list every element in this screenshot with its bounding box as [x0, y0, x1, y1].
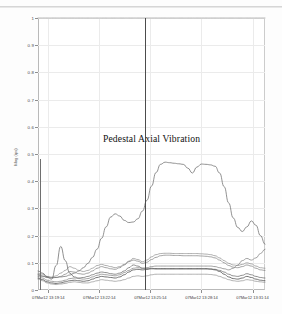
x-tick-label: 07Mar12 13:22:14	[83, 295, 115, 300]
vibration-chart-screenshot: Mag (ips) 00.10.20.30.40.50.60.70.80.91 …	[0, 0, 282, 314]
trace-trace-baseline	[38, 274, 265, 284]
x-tick-mark	[150, 290, 151, 293]
x-tick-label: 07Mar12 13:28:14	[185, 295, 217, 300]
x-tick-label: 07Mar12 13:31:14	[236, 295, 268, 300]
x-tick-mark	[253, 290, 254, 293]
x-tick-label: 07Mar12 13:25:14	[134, 295, 166, 300]
x-tick-mark	[99, 290, 100, 293]
y-tick-label: 0.5	[28, 152, 34, 157]
y-tick-label: 0	[31, 288, 34, 293]
trace-trace-right-rise	[38, 249, 265, 282]
left-edge-cursor-line	[40, 159, 41, 290]
y-tick-label: 0.6	[28, 124, 34, 129]
y-tick-label: 0.4	[28, 179, 34, 184]
y-tick-label: 0.1	[28, 260, 34, 265]
y-tick-label: 0.7	[28, 97, 34, 102]
y-tick-mark	[35, 290, 38, 291]
y-tick-label: 1	[31, 16, 34, 21]
y-tick-label: 0.9	[28, 43, 34, 48]
x-tick-label: 07Mar12 13:19:14	[32, 295, 64, 300]
y-tick-label: 0.2	[28, 233, 34, 238]
scan-top-edge-shadow	[0, 7, 282, 8]
plot-area[interactable]: 00.10.20.30.40.50.60.70.80.91 07Mar12 13…	[38, 18, 265, 290]
trace-trace-low-steady	[38, 269, 265, 284]
cursor-line[interactable]	[145, 18, 146, 290]
x-tick-mark	[48, 290, 49, 293]
chart-title: Pedestal Axial Vibration	[103, 132, 200, 143]
y-tick-label: 0.8	[28, 70, 34, 75]
y-tick-label: 0.3	[28, 206, 34, 211]
data-traces	[38, 18, 265, 290]
x-tick-mark	[201, 290, 202, 293]
y-axis-label: Mag (ips)	[13, 148, 18, 165]
trace-pedestal-axial-primary	[38, 162, 265, 277]
